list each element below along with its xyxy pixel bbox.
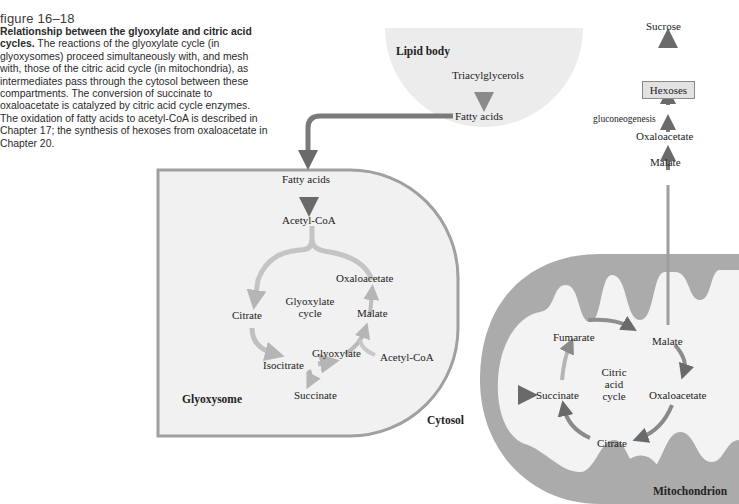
malate-export-label: Malate	[650, 156, 681, 168]
glyoxylate-cycle-label-line1: Glyoxylate	[285, 295, 335, 307]
acetyl-coa-side-label: Acetyl-CoA	[380, 351, 434, 363]
acetyl-coa-top-label: Acetyl-CoA	[282, 214, 336, 226]
fumarate-label: Fumarate	[553, 331, 595, 343]
hexoses-box: Hexoses	[642, 81, 695, 99]
sucrose-label: Sucrose	[646, 20, 681, 32]
lipid-body-label: Lipid body	[396, 45, 450, 57]
citric-acid-cycle-line1: Citric	[594, 366, 634, 378]
malate-mito-label: Malate	[652, 335, 683, 347]
oxaloacetate-mito-label: Oxaloacetate	[649, 389, 706, 401]
citric-acid-cycle-label: Citric acid cycle	[594, 366, 634, 402]
citrate-glyoxysome-label: Citrate	[232, 309, 262, 321]
isocitrate-label: Isocitrate	[263, 359, 304, 371]
glyoxylate-cycle-label: Glyoxylate cycle	[285, 295, 335, 319]
glyoxylate-cycle-label-line2: cycle	[285, 307, 335, 319]
oxaloacetate-glyoxysome-label: Oxaloacetate	[336, 272, 393, 284]
citric-acid-cycle-line2: acid	[594, 378, 634, 390]
citrate-mito-label: Citrate	[597, 437, 627, 449]
mitochondrion-label: Mitochondrion	[653, 485, 727, 497]
cytosol-label: Cytosol	[427, 414, 464, 426]
fatty-acid-transport-arrow	[308, 116, 453, 160]
fatty-acids-glyoxysome-label: Fatty acids	[282, 173, 330, 185]
malate-glyoxysome-label: Malate	[357, 307, 388, 319]
triacylglycerols-label: Triacylglycerols	[452, 69, 524, 81]
gluconeogenesis-label: gluconeogenesis	[593, 113, 656, 125]
citric-acid-cycle-line3: cycle	[594, 390, 634, 402]
fatty-acids-lipid-label: Fatty acids	[455, 110, 503, 122]
succinate-glyoxysome-label: Succinate	[294, 389, 337, 401]
diagram-graphics	[0, 0, 739, 504]
glyoxylate-label: Glyoxylate	[312, 347, 361, 359]
succinate-mito-label: Succinate	[536, 389, 579, 401]
glyoxysome-label: Glyoxysome	[182, 393, 242, 405]
oxaloacetate-export-label: Oxaloacetate	[636, 130, 693, 142]
